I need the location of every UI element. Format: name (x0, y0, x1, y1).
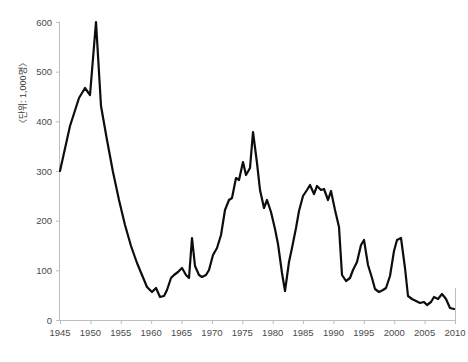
x-tick-label: 1975 (232, 327, 253, 338)
y-tick-label: 100 (36, 265, 52, 276)
x-tick-label: 2005 (414, 327, 435, 338)
x-tick-label: 1980 (262, 327, 283, 338)
x-tick-label: 2010 (444, 327, 465, 338)
data-series-line (60, 22, 454, 309)
x-tick-label: 1995 (353, 327, 374, 338)
x-tick-label: 1970 (201, 327, 222, 338)
y-tick-label: 200 (36, 215, 52, 226)
y-tick-label: 0 (47, 315, 52, 326)
x-tick-label: 1955 (110, 327, 131, 338)
x-tick-label: 1945 (49, 327, 70, 338)
x-tick-label: 1990 (323, 327, 344, 338)
x-tick-label: 1985 (293, 327, 314, 338)
x-tick-label: 2000 (384, 327, 405, 338)
chart-container: 〈단위: 1,000명〉 0100200300400500600 1945195… (0, 0, 468, 362)
y-tick-label: 500 (36, 66, 52, 77)
y-axis: 0100200300400500600 (36, 17, 60, 326)
y-tick-label: 400 (36, 116, 52, 127)
x-tick-label: 1965 (171, 327, 192, 338)
y-tick-label: 600 (36, 17, 52, 28)
x-tick-label: 1960 (141, 327, 162, 338)
y-tick-label: 300 (36, 166, 52, 177)
line-chart-plot: 0100200300400500600 19451950195519601965… (0, 0, 468, 362)
x-tick-label: 1950 (80, 327, 101, 338)
x-axis: 1945195019551960196519701975198019851990… (49, 320, 465, 338)
